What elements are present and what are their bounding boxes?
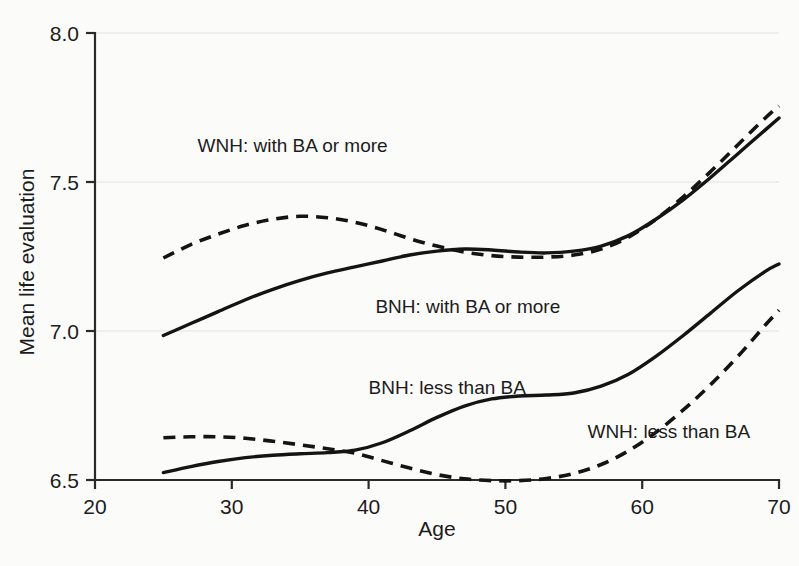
y-tick-label: 6.5	[50, 469, 79, 492]
series-annotation-label: WNH: less than BA	[587, 421, 750, 442]
series-annotation-label: WNH: with BA or more	[198, 135, 388, 156]
series-annotation-label: BNH: less than BA	[369, 377, 527, 398]
series-annotation-label: BNH: with BA or more	[375, 296, 560, 317]
x-axis-ticks: 203040506070	[83, 480, 790, 518]
x-tick-label: 70	[767, 495, 790, 518]
axes	[95, 33, 779, 480]
series-annotations: WNH: with BA or moreBNH: with BA or more…	[198, 135, 751, 442]
y-axis-title: Mean life evaluation	[15, 169, 38, 356]
y-axis-ticks: 6.57.07.58.0	[50, 22, 95, 492]
y-tick-label: 8.0	[50, 22, 79, 45]
x-tick-label: 60	[631, 495, 654, 518]
gridlines	[95, 33, 779, 480]
y-tick-label: 7.5	[50, 171, 79, 194]
x-tick-label: 30	[220, 495, 243, 518]
figure-container: 6.57.07.58.0 203040506070 WNH: with BA o…	[0, 0, 799, 566]
y-tick-label: 7.0	[50, 320, 79, 343]
x-tick-label: 20	[83, 495, 106, 518]
x-tick-label: 50	[494, 495, 517, 518]
line-chart: 6.57.07.58.0 203040506070 WNH: with BA o…	[0, 0, 799, 566]
x-tick-label: 40	[357, 495, 380, 518]
x-axis-title: Age	[418, 517, 455, 540]
